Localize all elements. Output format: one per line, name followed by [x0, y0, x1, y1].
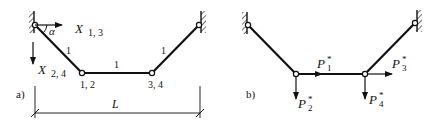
node-3-4-label: 3, 4 — [148, 79, 163, 90]
p2-symbol: P — [297, 96, 306, 111]
panel-a-label: a) — [16, 88, 25, 101]
hinge-right-support — [196, 22, 201, 27]
angle-arc-icon — [43, 25, 47, 33]
p1-superscript: * — [327, 54, 332, 64]
member-left-b — [248, 25, 296, 74]
node-right-b — [362, 71, 367, 76]
p3-symbol: P — [391, 56, 400, 71]
span-label: L — [111, 97, 119, 111]
member-left-label: 1 — [66, 45, 71, 56]
right-fixed-support — [201, 11, 206, 33]
node-1-2 — [79, 70, 84, 75]
panel-a: α X 1, 3 X 2, 4 1 1 1 1, 2 3, 4 a) L — [16, 11, 206, 118]
p2-superscript: * — [308, 94, 313, 104]
panel-b-label: b) — [246, 88, 256, 101]
x24-symbol: X — [37, 62, 47, 77]
p2-subscript: 2 — [308, 103, 313, 113]
node-3-4 — [149, 70, 154, 75]
left-fixed-support — [29, 11, 34, 33]
hinge-left-support-b — [245, 22, 250, 27]
hinge-right-support-b — [412, 20, 417, 25]
panel-b: P 1 * P 2 * P 3 * P 4 * b) — [242, 10, 422, 113]
p4-symbol: P — [368, 92, 377, 107]
p3-subscript: 3 — [402, 63, 407, 73]
member-right-label: 1 — [161, 45, 166, 56]
node-1-2-label: 1, 2 — [80, 79, 95, 90]
node-left-b — [293, 71, 298, 76]
member-right-b — [365, 24, 414, 74]
p4-superscript: * — [379, 90, 384, 100]
cable-structure-diagram: α X 1, 3 X 2, 4 1 1 1 1, 2 3, 4 a) L — [0, 0, 440, 125]
p1-subscript: 1 — [327, 63, 332, 73]
member-middle-label: 1 — [114, 59, 119, 70]
p3-superscript: * — [402, 54, 407, 64]
member-right — [152, 25, 199, 73]
p1-symbol: P — [316, 56, 325, 71]
x24-subscript: 2, 4 — [51, 68, 66, 79]
x13-subscript: 1, 3 — [88, 27, 103, 38]
right-fixed-support-b — [417, 10, 422, 32]
x13-symbol: X — [74, 21, 84, 36]
angle-alpha-label: α — [49, 25, 55, 37]
p4-subscript: 4 — [379, 99, 384, 109]
